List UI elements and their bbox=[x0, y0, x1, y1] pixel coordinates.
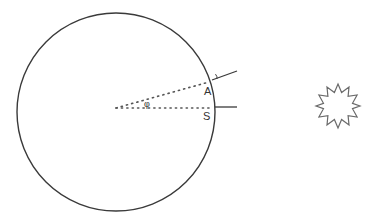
point-a-label: A bbox=[204, 85, 212, 97]
ray-at-a-line bbox=[212, 71, 237, 80]
point-s-label: S bbox=[203, 110, 210, 122]
sun-star-icon bbox=[316, 84, 360, 128]
angle-phi-label: φ bbox=[144, 99, 150, 109]
earth-circle bbox=[17, 13, 215, 211]
radius-to-a-dotted-line bbox=[116, 82, 209, 108]
diagram-canvas: A S φ bbox=[0, 0, 375, 224]
